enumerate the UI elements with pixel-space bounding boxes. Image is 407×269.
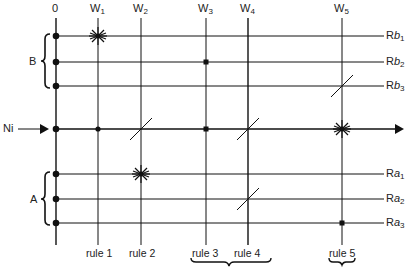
input-arrow-head-icon (40, 124, 49, 134)
column-label-w3: W3 (198, 3, 213, 16)
output-arrow-head-icon (395, 124, 404, 134)
column-label-w1: W1 (90, 3, 105, 16)
rule-label-2: rule 2 (129, 248, 155, 259)
column-label-w5: W5 (334, 3, 349, 16)
column-label-subscript: 3 (208, 7, 212, 16)
row-label-subscript: 1 (400, 34, 404, 43)
column-label-w4: W4 (240, 3, 255, 16)
column-label-subscript: 5 (344, 7, 348, 16)
rule-label-5: rule 5 (329, 248, 355, 259)
node-dot-rb2 (53, 59, 60, 66)
row-label-ra1: Ra1 (386, 168, 405, 181)
star-marker-w2-ra1 (132, 165, 150, 183)
star-marker-w5-ni (333, 120, 351, 138)
row-label-rb2: Rb2 (386, 56, 405, 69)
column-label-text: W (90, 2, 100, 14)
column-label-text: W (198, 2, 208, 14)
node-dot-rb3 (53, 83, 60, 90)
node-dot-ra1 (53, 171, 60, 178)
rule-label-1: rule 1 (86, 248, 112, 259)
column-label-w2: W2 (133, 3, 148, 16)
group-label-b: B (29, 56, 36, 67)
brace-group-a (41, 172, 50, 225)
row-label-subscript: 2 (400, 60, 404, 69)
node-dot-ra3 (53, 220, 60, 227)
brace-group-b (41, 34, 50, 88)
row-label-rb3: Rb3 (386, 80, 405, 93)
column-label-subscript: 4 (250, 7, 254, 16)
row-label-rb1: Rb1 (386, 30, 405, 43)
node-dot-rb1 (53, 33, 60, 40)
column-label-subscript: 2 (143, 7, 147, 16)
column-label-subscript: 1 (100, 7, 104, 16)
row-label-subscript: 3 (400, 84, 404, 93)
column-label-text: W (334, 2, 344, 14)
row-label-subscript: 2 (400, 197, 404, 206)
rule-network-diagram (0, 0, 407, 269)
dot-marker-w3-ni (204, 127, 209, 132)
node-dot-ra2 (53, 196, 60, 203)
brace-rule-5 (329, 258, 355, 265)
column-label-text: 0 (52, 2, 58, 14)
column-label-text: W (133, 2, 143, 14)
input-label-ni: Ni (3, 123, 13, 134)
node-dot-ni (53, 126, 60, 133)
column-label-0: 0 (52, 3, 58, 14)
dot-marker-w3-rb2 (204, 60, 209, 65)
group-label-a: A (30, 194, 37, 205)
row-label-ra3: Ra3 (386, 217, 405, 230)
row-label-ra2: Ra2 (386, 193, 405, 206)
row-label-subscript: 3 (400, 221, 404, 230)
rule-label-3: rule 3 (192, 248, 218, 259)
dot-marker-w1-ni (95, 126, 100, 131)
rule-label-4: rule 4 (234, 248, 260, 259)
column-label-text: W (240, 2, 250, 14)
star-marker-w1-rb1 (89, 27, 107, 45)
brace-rules-3-4 (191, 258, 271, 266)
dot-marker-w5-ra3 (340, 221, 345, 226)
row-label-subscript: 1 (400, 172, 404, 181)
